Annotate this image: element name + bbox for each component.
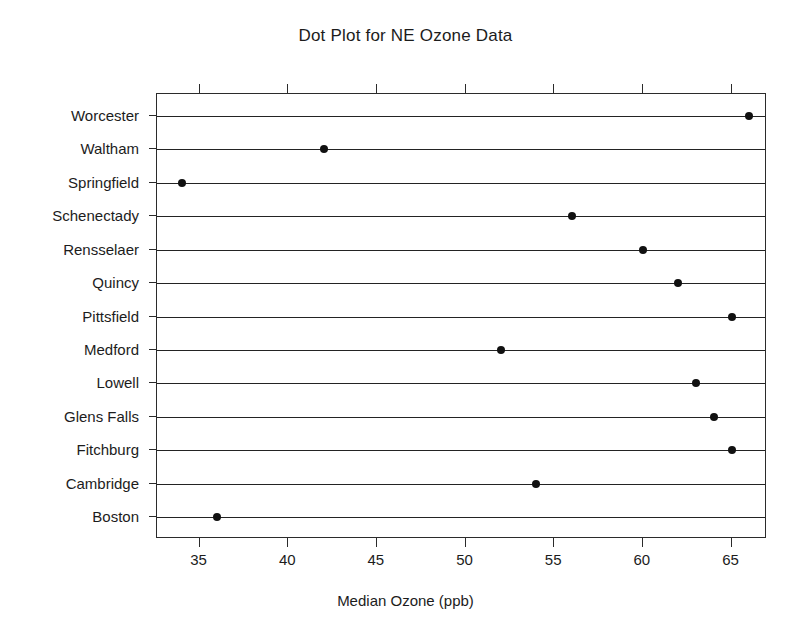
y-axis-tick	[149, 483, 156, 484]
data-point	[532, 480, 540, 488]
row-line	[157, 450, 765, 451]
x-axis-tick-label: 60	[634, 551, 651, 568]
x-axis-tick	[553, 538, 554, 547]
y-axis-label: Medford	[84, 340, 139, 357]
x-axis-tick-label: 55	[545, 551, 562, 568]
x-axis-tick	[642, 538, 643, 547]
data-point	[497, 346, 505, 354]
row-line	[157, 517, 765, 518]
row-line	[157, 383, 765, 384]
x-axis-top-tick	[553, 84, 554, 93]
y-axis-label: Glens Falls	[64, 407, 139, 424]
x-axis-tick-label: 65	[722, 551, 739, 568]
row-line	[157, 149, 765, 150]
y-axis-tick	[149, 449, 156, 450]
chart-title: Dot Plot for NE Ozone Data	[0, 26, 811, 46]
y-axis-label: Springfield	[68, 173, 139, 190]
x-axis-tick	[376, 538, 377, 547]
x-axis-tick	[199, 538, 200, 547]
data-point	[674, 279, 682, 287]
row-line	[157, 484, 765, 485]
y-axis-label: Pittsfield	[82, 307, 139, 324]
y-axis-label: Cambridge	[66, 474, 139, 491]
x-axis-tick-label: 40	[279, 551, 296, 568]
row-line	[157, 116, 765, 117]
data-point	[568, 212, 576, 220]
y-axis-label: Lowell	[96, 374, 139, 391]
x-axis-tick	[465, 538, 466, 547]
data-point	[639, 246, 647, 254]
x-axis-top-tick	[376, 84, 377, 93]
x-axis-top-tick	[199, 84, 200, 93]
data-point	[178, 179, 186, 187]
y-axis-label: Boston	[92, 508, 139, 525]
row-line	[157, 417, 765, 418]
dot-plot-figure: Dot Plot for NE Ozone Data WorcesterWalt…	[0, 0, 811, 644]
row-line	[157, 350, 765, 351]
y-axis-tick	[149, 516, 156, 517]
y-axis-tick	[149, 416, 156, 417]
y-axis-tick	[149, 316, 156, 317]
data-point	[710, 413, 718, 421]
y-axis-tick	[149, 182, 156, 183]
x-axis-top-tick	[287, 84, 288, 93]
x-axis-tick-label: 45	[368, 551, 385, 568]
data-point	[728, 446, 736, 454]
row-line	[157, 216, 765, 217]
y-axis-tick	[149, 249, 156, 250]
y-axis-label: Rensselaer	[63, 240, 139, 257]
x-axis-top-tick	[731, 84, 732, 93]
y-axis-label: Quincy	[92, 274, 139, 291]
row-line	[157, 317, 765, 318]
x-axis-tick	[731, 538, 732, 547]
data-point	[692, 379, 700, 387]
y-axis-tick	[149, 382, 156, 383]
y-axis-label: Waltham	[80, 140, 139, 157]
plot-area	[156, 93, 766, 538]
row-line	[157, 250, 765, 251]
y-axis-tick	[149, 148, 156, 149]
x-axis-tick-label: 35	[190, 551, 207, 568]
y-axis-tick	[149, 349, 156, 350]
data-point	[320, 145, 328, 153]
data-point	[745, 112, 753, 120]
x-axis-title: Median Ozone (ppb)	[0, 592, 811, 609]
x-axis-top-tick	[642, 84, 643, 93]
x-axis-top-tick	[465, 84, 466, 93]
y-axis-label: Schenectady	[52, 207, 139, 224]
x-axis-tick	[287, 538, 288, 547]
x-axis: 35404550556065	[156, 538, 766, 598]
y-axis-tick	[149, 282, 156, 283]
y-axis-label: Fitchburg	[76, 441, 139, 458]
x-axis-tick-label: 50	[456, 551, 473, 568]
y-axis-label: Worcester	[71, 107, 139, 124]
row-line	[157, 183, 765, 184]
data-point	[728, 313, 736, 321]
data-point	[213, 513, 221, 521]
y-axis-category-labels: WorcesterWalthamSpringfieldSchenectadyRe…	[0, 93, 147, 538]
y-axis-tick	[149, 115, 156, 116]
y-axis-tick	[149, 215, 156, 216]
